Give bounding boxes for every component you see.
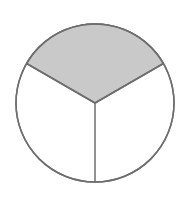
circle-svg xyxy=(0,0,181,200)
fraction-circle-diagram: Circle divided into three equal sectors … xyxy=(0,0,181,200)
